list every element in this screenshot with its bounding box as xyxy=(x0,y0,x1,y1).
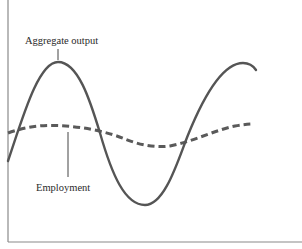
business-cycle-chart: Aggregate output Employment xyxy=(0,0,302,249)
employment-label: Employment xyxy=(36,182,90,193)
aggregate-output-label: Aggregate output xyxy=(25,35,98,46)
employment-line xyxy=(8,124,253,147)
